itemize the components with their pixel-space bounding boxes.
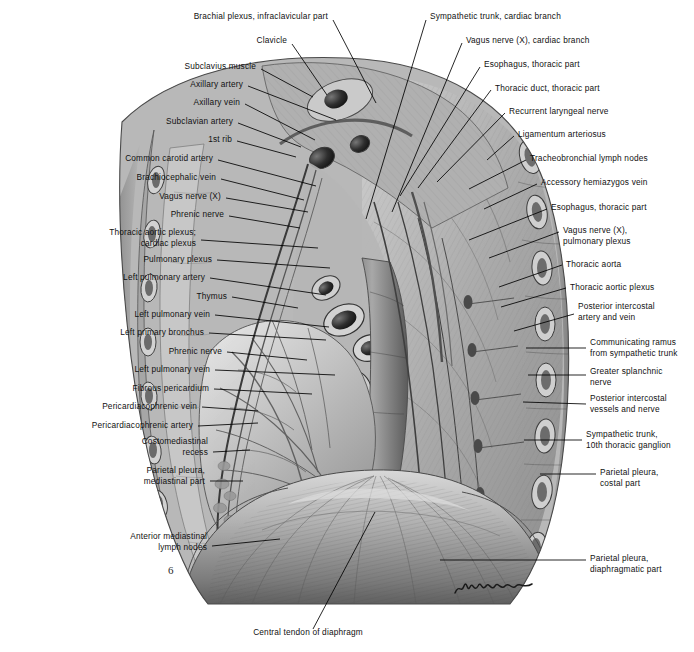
label-vagus-nerve-pulmonary-plexus: Vagus nerve (X), pulmonary plexus xyxy=(563,225,631,246)
label-pericardiacophrenic-vein: Pericardiacophrenic vein xyxy=(102,401,197,412)
label-posterior-intercostal-artery-vein: Posterior intercostal artery and vein xyxy=(578,301,655,322)
label-parietal-pleura-costal: Parietal pleura, costal part xyxy=(600,467,658,488)
label-thymus: Thymus xyxy=(196,291,227,302)
label-costomediastinal-recess: Costomediastinal recess xyxy=(142,436,208,457)
artist-signature xyxy=(452,577,538,599)
label-axillary-vein: Axillary vein xyxy=(194,97,240,108)
label-phrenic-nerve-lower: Phrenic nerve xyxy=(169,346,222,357)
label-brachiocephalic-vein: Brachiocephalic vein xyxy=(137,172,216,183)
label-subclavian-artery: Subclavian artery xyxy=(166,116,233,127)
label-esophagus-thoracic-part-upper: Esophagus, thoracic part xyxy=(484,59,580,70)
label-ligamentum-arteriosum: Ligamentum arteriosus xyxy=(518,129,606,140)
label-left-pulmonary-vein-lower: Left pulmonary vein xyxy=(134,364,210,375)
label-central-tendon-of-diaphragm: Central tendon of diaphragm xyxy=(253,627,363,638)
label-esophagus-thoracic-part-lower: Esophagus, thoracic part xyxy=(551,202,647,213)
label-sympathetic-trunk-cardiac-branch: Sympathetic trunk, cardiac branch xyxy=(430,11,561,22)
label-accessory-hemiazygos-vein: Accessory hemiazygos vein xyxy=(541,177,648,188)
label-subclavius-muscle: Subclavius muscle xyxy=(184,61,256,72)
label-clavicle: Clavicle xyxy=(257,35,287,46)
svg-text:6: 6 xyxy=(168,564,174,576)
label-left-pulmonary-artery: Left pulmonary artery xyxy=(123,272,205,283)
label-thoracic-aortic-cardiac-plexus: Thoracic aortic plexus; cardiac plexus xyxy=(109,227,196,248)
label-left-pulmonary-vein-upper: Left pulmonary vein xyxy=(134,309,210,320)
label-parietal-pleura-mediastinal: Parietal pleura, mediastinal part xyxy=(144,465,205,486)
label-thoracic-duct-thoracic-part: Thoracic duct, thoracic part xyxy=(495,83,600,94)
label-communicating-ramus: Communicating ramus from sympathetic tru… xyxy=(590,337,678,358)
label-posterior-intercostal-vessels-nerve: Posterior intercostal vessels and nerve xyxy=(590,393,667,414)
label-axillary-artery: Axillary artery xyxy=(190,79,243,90)
label-fibrous-pericardium: Fibrous pericardium xyxy=(133,383,209,394)
label-vagus-nerve-x: Vagus nerve (X) xyxy=(159,191,221,202)
label-pulmonary-plexus: Pulmonary plexus xyxy=(143,254,212,265)
label-parietal-pleura-diaphragmatic: Parietal pleura, diaphragmatic part xyxy=(590,553,662,574)
label-recurrent-laryngeal-nerve: Recurrent laryngeal nerve xyxy=(509,106,609,117)
label-sympathetic-trunk-10th-ganglion: Sympathetic trunk, 10th thoracic ganglio… xyxy=(586,429,671,450)
label-brachial-plexus: Brachial plexus, infraclavicular part xyxy=(194,11,328,22)
label-anterior-mediastinal-lymph-nodes: Anterior mediastinal lymph nodes xyxy=(130,531,207,552)
label-common-carotid-artery: Common carotid artery xyxy=(125,153,213,164)
label-vagus-nerve-cardiac-branch: Vagus nerve (X), cardiac branch xyxy=(466,35,590,46)
anatomical-plate: 6 Brachial plexus, infraclavicular partC… xyxy=(0,0,694,652)
label-thoracic-aorta: Thoracic aorta xyxy=(566,259,621,270)
label-tracheobronchial-lymph-nodes: Tracheobronchial lymph nodes xyxy=(530,153,648,164)
label-left-primary-bronchus: Left primary bronchus xyxy=(120,327,204,338)
label-pericardiacophrenic-artery: Pericardiacophrenic artery xyxy=(92,420,193,431)
label-thoracic-aortic-plexus: Thoracic aortic plexus xyxy=(570,282,654,293)
label-first-rib: 1st rib xyxy=(208,134,232,145)
label-greater-splanchnic-nerve: Greater splanchnic nerve xyxy=(590,366,663,387)
label-phrenic-nerve-upper: Phrenic nerve xyxy=(171,209,224,220)
